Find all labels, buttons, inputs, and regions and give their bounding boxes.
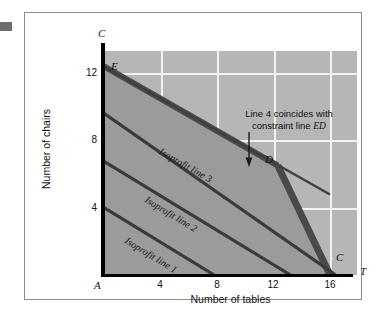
page-edge-marker — [0, 22, 12, 31]
y-axis — [101, 43, 105, 277]
x-axis-title: Number of tables — [104, 293, 357, 305]
vertex-label-A: A — [94, 279, 101, 291]
x-tick-label-8: 8 — [208, 279, 226, 290]
chart-graphics — [104, 51, 357, 275]
y-tick-label-4: 4 — [79, 202, 97, 213]
annotation-line-1: Line 4 coincides with — [245, 108, 333, 119]
x-tick-label-12: 12 — [264, 279, 282, 290]
x-axis-end-label: T — [360, 265, 366, 277]
x-axis — [101, 274, 353, 278]
vertex-label-E: E — [111, 60, 118, 72]
chart-annotation: Line 4 coincides with constraint line ED — [221, 108, 357, 132]
vertex-label-C: C — [336, 251, 343, 263]
y-axis-end-label: C — [98, 27, 105, 39]
annotation-emphasis: ED — [313, 121, 326, 131]
x-tick-label-4: 4 — [151, 279, 169, 290]
x-tick-label-16: 16 — [321, 279, 339, 290]
y-tick-label-12: 12 — [79, 67, 97, 78]
annotation-line-2: constraint line — [252, 120, 313, 131]
figure-frame: Isoprofit line 3 Isoprofit line 2 Isopro… — [24, 12, 362, 300]
figure-root: Isoprofit line 3 Isoprofit line 2 Isopro… — [0, 0, 377, 317]
vertex-label-D: D — [265, 153, 273, 165]
y-axis-title: Number of chairs — [40, 84, 52, 214]
y-tick-label-8: 8 — [79, 134, 97, 145]
plot-area: Isoprofit line 3 Isoprofit line 2 Isopro… — [104, 51, 357, 275]
